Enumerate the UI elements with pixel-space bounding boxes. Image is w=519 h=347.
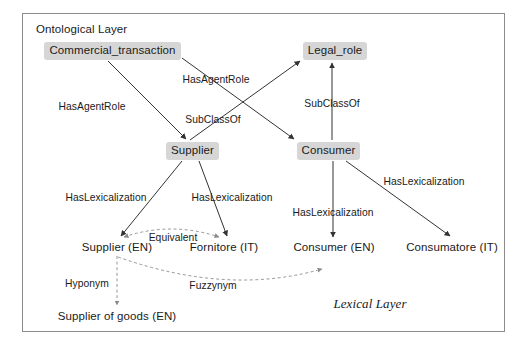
- ontology-diagram: Commercial_transactionLegal_roleSupplier…: [0, 0, 519, 347]
- lexical-node-consumer_en[interactable]: Consumer (EN): [293, 242, 374, 254]
- ontological-layer-title: Ontological Layer: [36, 24, 127, 36]
- ontology-node-commercial_transaction[interactable]: Commercial_transaction: [44, 42, 181, 60]
- ontology-node-legal_role[interactable]: Legal_role: [303, 42, 367, 60]
- edge-ct-to-supplier: [108, 61, 186, 139]
- edge-label-consumer-to-consumatore-it: HasLexicalization: [384, 177, 465, 187]
- edge-label-consumer-to-legal-role: SubClassOf: [304, 99, 359, 109]
- ontology-node-supplier[interactable]: Supplier: [166, 142, 219, 160]
- edge-label-supplier-en-fuzzynym-consumer-en: Fuzzynym: [189, 281, 236, 291]
- edge-label-ct-to-supplier: HasAgentRole: [59, 102, 126, 112]
- edge-label-supplier-to-fornitore-it: HasLexicalization: [192, 193, 273, 203]
- lexical-node-supplier_en[interactable]: Supplier (EN): [82, 242, 152, 254]
- edge-consumer-to-consumatore-it: [346, 161, 450, 236]
- edge-label-consumer-to-consumer-en: HasLexicalization: [293, 208, 374, 218]
- lexical-node-fornitore_it[interactable]: Fornitore (IT): [190, 242, 259, 254]
- edge-supplier-to-legal-role: [190, 61, 300, 140]
- edge-supplier-en-fuzzynym-consumer-en: [118, 257, 322, 280]
- edge-label-supplier-en-equivalent-fornitore-it: Equivalent: [149, 233, 198, 243]
- lexical-layer-title: Lexical Layer: [333, 297, 406, 310]
- ontology-node-consumer[interactable]: Consumer: [297, 142, 360, 160]
- edge-ct-to-consumer: [182, 58, 294, 139]
- edge-label-supplier-en-hyponym-supplier-of-goods: Hyponym: [65, 279, 109, 289]
- edge-label-supplier-to-legal-role: SubClassOf: [185, 115, 240, 125]
- lexical-node-supplier_of_goods_en[interactable]: Supplier of goods (EN): [58, 311, 177, 323]
- edge-label-ct-to-consumer: HasAgentRole: [183, 75, 250, 85]
- lexical-node-consumatore_it[interactable]: Consumatore (IT): [406, 242, 498, 254]
- edge-label-supplier-to-supplier-en: HasLexicalization: [66, 193, 147, 203]
